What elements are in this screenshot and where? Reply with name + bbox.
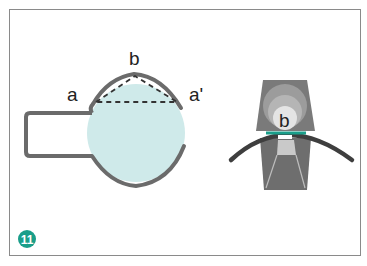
label-b: b xyxy=(129,48,140,69)
right-diagram: b xyxy=(231,80,352,190)
light-block xyxy=(277,140,296,155)
white-gap xyxy=(278,135,292,139)
figure-number-badge: 11 xyxy=(18,230,36,248)
handle-outline xyxy=(26,113,92,156)
badge-number: 11 xyxy=(21,233,34,247)
left-diagram: b a a' xyxy=(26,48,203,186)
left-join xyxy=(91,104,93,113)
label-a: a xyxy=(67,84,78,105)
label-a-prime: a' xyxy=(189,84,203,105)
label-b-right: b xyxy=(279,110,290,131)
diagram-canvas: b a a' b 11 xyxy=(0,0,367,266)
